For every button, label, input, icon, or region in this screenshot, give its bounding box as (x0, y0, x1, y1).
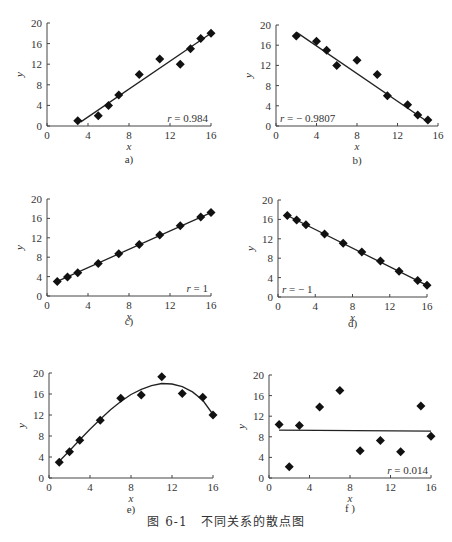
y-tick-label: 4 (39, 451, 45, 463)
y-tick-label: 12 (260, 59, 271, 71)
data-point (275, 420, 284, 429)
data-point (315, 402, 324, 411)
y-tick-label: 8 (37, 251, 43, 263)
data-point (322, 46, 331, 55)
y-tick-label: 20 (253, 369, 265, 381)
data-point (413, 110, 422, 119)
x-tick-label: 0 (44, 129, 50, 141)
x-tick-label: 4 (313, 300, 319, 312)
data-point (157, 372, 166, 381)
correlation-annotation: r = 1 (187, 282, 209, 294)
y-tick-label: 20 (31, 17, 43, 29)
data-point (320, 229, 329, 238)
correlation-annotation: r = 0.014 (387, 464, 428, 476)
x-axis-label: x (126, 140, 132, 152)
scatter-figure: 0481216200481216xyr = 0.984a)04812162004… (0, 0, 452, 542)
y-tick-label: 12 (31, 58, 42, 70)
data-point (176, 221, 185, 230)
data-point (427, 432, 436, 441)
data-point (137, 391, 146, 400)
data-point (196, 212, 205, 221)
scatter-panel-e: 0481216200481216xye) (15, 367, 219, 516)
x-tick-label: 4 (314, 129, 320, 141)
x-tick-label: 4 (87, 481, 93, 493)
data-point (283, 211, 292, 220)
y-tick-label: 8 (259, 431, 265, 443)
data-point (423, 281, 432, 290)
data-point (416, 401, 425, 410)
data-point (53, 277, 62, 286)
y-tick-label: 8 (39, 430, 45, 442)
y-tick-label: 16 (33, 388, 45, 400)
data-point (207, 29, 216, 38)
data-point (196, 34, 205, 43)
correlation-annotation: r = − 0.9807 (280, 112, 336, 124)
y-tick-label: 16 (253, 390, 265, 402)
x-tick-label: 0 (46, 481, 52, 493)
y-tick-label: 4 (37, 271, 43, 283)
data-point (65, 447, 74, 456)
y-axis-label: y (15, 423, 27, 429)
data-point (395, 267, 404, 276)
y-tick-label: 0 (37, 120, 43, 132)
data-point (155, 230, 164, 239)
x-tick-label: 0 (266, 481, 272, 493)
y-tick-label: 20 (33, 367, 45, 379)
data-point (301, 220, 310, 229)
data-point (176, 60, 185, 69)
y-tick-label: 8 (266, 80, 272, 92)
x-tick-label: 12 (165, 299, 176, 311)
y-axis-label: y (235, 424, 247, 430)
y-axis-label: y (13, 245, 25, 251)
scatter-panel-d: 0481216200481216xyr = − 1d) (244, 194, 433, 330)
y-tick-label: 4 (37, 99, 43, 111)
y-axis-label: y (242, 73, 254, 79)
panel-sublabel: c) (125, 315, 134, 328)
data-point (198, 393, 207, 402)
data-point (73, 268, 82, 277)
x-tick-label: 16 (426, 481, 438, 493)
x-tick-label: 16 (206, 129, 218, 141)
y-tick-label: 16 (262, 213, 274, 225)
x-tick-label: 12 (384, 300, 395, 312)
scatter-panel-c: 0481216200481216xyr = 1c) (13, 193, 217, 328)
y-tick-label: 0 (37, 290, 43, 302)
y-tick-label: 12 (31, 232, 42, 244)
data-point (292, 32, 301, 41)
x-tick-label: 16 (422, 300, 434, 312)
data-point (94, 259, 103, 268)
data-point (178, 389, 187, 398)
y-tick-label: 0 (268, 291, 274, 303)
y-tick-label: 12 (262, 233, 273, 245)
data-point (295, 421, 304, 430)
y-axis-label: y (13, 72, 25, 78)
x-tick-label: 16 (433, 129, 445, 141)
y-tick-label: 16 (31, 38, 43, 50)
x-tick-label: 12 (385, 481, 396, 493)
y-tick-label: 8 (37, 79, 43, 91)
data-point (356, 446, 365, 455)
y-tick-label: 20 (31, 193, 43, 205)
x-axis-label: x (354, 140, 360, 152)
y-tick-label: 12 (33, 409, 44, 421)
data-point (376, 436, 385, 445)
x-tick-label: 0 (273, 129, 279, 141)
y-tick-label: 16 (260, 39, 272, 51)
y-tick-label: 20 (260, 19, 272, 31)
data-point (285, 462, 294, 471)
data-point (63, 273, 72, 282)
data-point (353, 56, 362, 65)
data-point (335, 386, 344, 395)
panel-sublabel: d) (348, 317, 358, 330)
x-tick-label: 16 (208, 481, 220, 493)
y-tick-label: 8 (268, 252, 274, 264)
data-point (207, 208, 216, 217)
data-point (104, 101, 113, 110)
x-tick-label: 4 (85, 129, 91, 141)
scatter-panel-b: 0481216200481216xyr = − 0.9807b) (242, 19, 444, 167)
data-point (423, 115, 432, 124)
data-point (209, 411, 218, 420)
scatter-panel-a: 0481216200481216xyr = 0.984a) (13, 17, 217, 166)
correlation-annotation: r = 0.984 (167, 112, 208, 124)
x-tick-label: 12 (392, 129, 403, 141)
